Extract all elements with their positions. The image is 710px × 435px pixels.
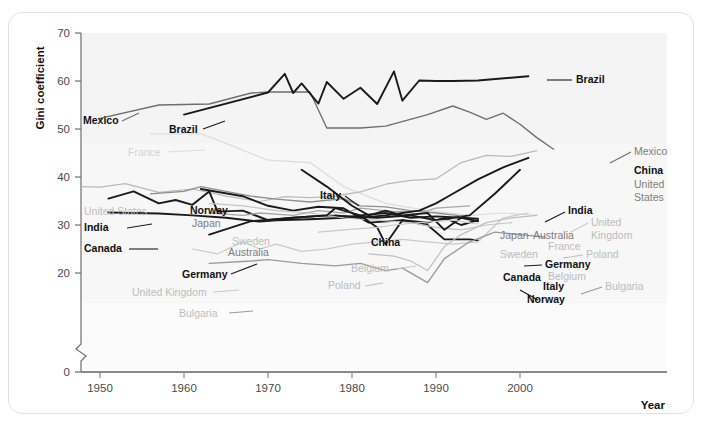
series-label-poland: Poland <box>586 248 619 260</box>
series-label-germany: Germany <box>182 268 228 280</box>
x-tick-label: 1980 <box>339 382 365 394</box>
chart-container: 70 60 50 40 30 20 0 1950 1960 1970 1980 … <box>0 0 710 435</box>
x-tick-label: 1960 <box>171 382 197 394</box>
series-label-norway: Norway <box>190 204 228 216</box>
series-label-france: France <box>128 146 161 158</box>
series-label-sweden: Sweden <box>500 248 538 260</box>
series-label-bulgaria: Bulgaria <box>605 280 644 292</box>
low-band <box>81 303 667 370</box>
series-label-poland: Poland <box>328 279 361 291</box>
y-tick-label: 50 <box>57 123 70 135</box>
series-label-united: United <box>591 216 622 228</box>
x-tick-labels: 1950 1960 1970 1980 1990 2000 <box>87 382 533 394</box>
y-tick-labels: 70 60 50 40 30 20 0 <box>57 27 70 378</box>
series-label-australia: Australia <box>228 246 269 258</box>
x-axis-title: Year <box>641 399 666 411</box>
y-axis-title: Gini coefficient <box>34 46 46 129</box>
series-label-bulgaria: Bulgaria <box>179 307 218 319</box>
series-label-united: United <box>634 178 665 190</box>
series-label-united-states: United States <box>84 205 147 217</box>
y-tick-label: 30 <box>57 219 70 231</box>
series-label-kingdom: Kingdom <box>591 229 633 241</box>
x-tick-label: 1950 <box>87 382 113 394</box>
series-label-india: India <box>568 204 593 216</box>
y-tick-label: 40 <box>57 171 70 183</box>
series-label-mexico: Mexico <box>83 114 119 126</box>
series-label-states: States <box>634 191 664 203</box>
x-axis <box>81 372 667 378</box>
x-tick-label: 1990 <box>423 382 449 394</box>
series-label-mexico: Mexico <box>634 145 667 157</box>
series-label-japan: Japan <box>192 217 221 229</box>
series-label-italy: Italy <box>320 189 341 201</box>
y-tick-label: 70 <box>57 27 70 39</box>
gini-line-chart: 70 60 50 40 30 20 0 1950 1960 1970 1980 … <box>0 0 710 435</box>
series-label-united-kingdom: United Kingdom <box>132 286 207 298</box>
series-label-japan: Japan <box>500 229 529 241</box>
series-label-canada: Canada <box>503 271 541 283</box>
y-tick-label: 0 <box>64 366 70 378</box>
series-label-italy: Italy <box>543 280 564 292</box>
series-label-canada: Canada <box>84 242 122 254</box>
series-label-belgium: Belgium <box>351 262 389 274</box>
y-tick-label: 60 <box>57 75 70 87</box>
series-label-china: China <box>634 164 663 176</box>
y-tick-label: 20 <box>57 267 70 279</box>
series-label-brazil: Brazil <box>576 73 605 85</box>
x-tick-label: 1970 <box>255 382 281 394</box>
series-label-norway: Norway <box>527 293 565 305</box>
x-tick-label: 2000 <box>507 382 533 394</box>
series-label-china: China <box>371 236 400 248</box>
series-label-brazil: Brazil <box>169 123 198 135</box>
series-label-france: France <box>548 240 581 252</box>
series-label-india: India <box>84 221 109 233</box>
series-label-germany: Germany <box>545 258 591 270</box>
